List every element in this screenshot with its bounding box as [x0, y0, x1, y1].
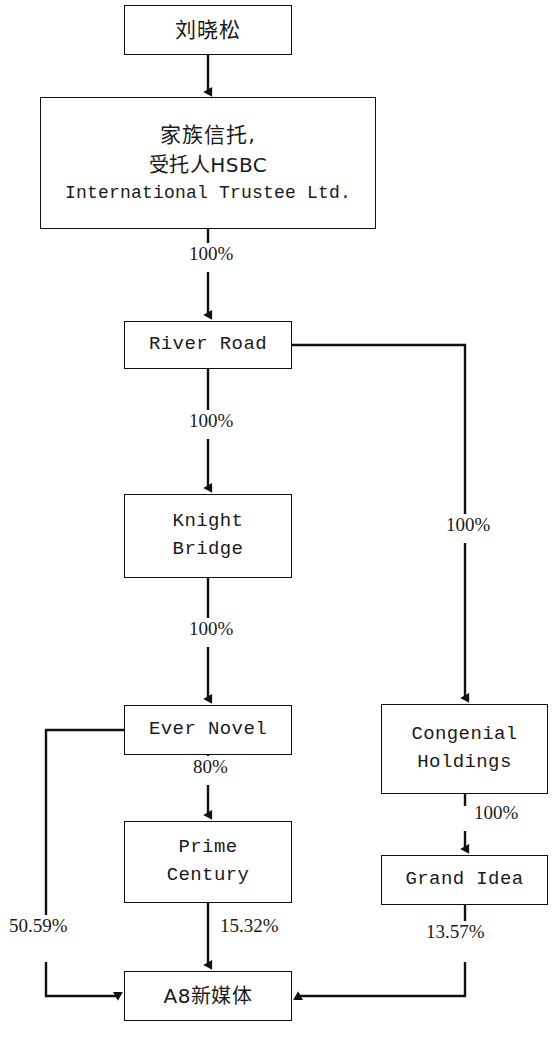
congenial-holdings-label-line2: Holdings — [417, 749, 511, 777]
liu-xiaosong-node[interactable]: 刘晓松 — [124, 5, 292, 55]
connector-river-road-branch-right — [292, 345, 465, 518]
family-trust-label-line1: 家族信托, — [160, 120, 256, 150]
connector-grand-idea-to-a8 — [298, 962, 465, 996]
prime-century-label-line2: Century — [167, 862, 250, 890]
river-road-node[interactable]: River Road — [124, 321, 292, 369]
grand-idea-node[interactable]: Grand Idea — [381, 855, 548, 905]
congenial-holdings-node[interactable]: Congenial Holdings — [381, 704, 548, 794]
a8-new-media-label: A8新媒体 — [164, 982, 253, 1011]
knight-bridge-label-line2: Bridge — [173, 536, 244, 564]
edge-label-river-road-to-knight-bridge: 100% — [186, 410, 236, 432]
edge-label-prime-century-to-a8: 15.32% — [217, 915, 282, 937]
congenial-holdings-label-line1: Congenial — [411, 721, 517, 749]
family-trust-label-line2: 受托人HSBC — [149, 151, 268, 180]
edge-label-congenial-to-grand-idea: 100% — [471, 802, 521, 824]
prime-century-node[interactable]: Prime Century — [124, 821, 292, 903]
edge-label-river-road-to-congenial: 100% — [443, 514, 493, 536]
connector-ever-novel-left-to-a8 — [46, 962, 118, 996]
river-road-label: River Road — [149, 331, 267, 359]
knight-bridge-label-line1: Knight — [173, 508, 244, 536]
liu-xiaosong-label: 刘晓松 — [175, 15, 241, 45]
grand-idea-label: Grand Idea — [405, 866, 523, 894]
prime-century-label-line1: Prime — [178, 834, 237, 862]
knight-bridge-node[interactable]: Knight Bridge — [124, 494, 292, 578]
edge-label-trust-to-river-road: 100% — [186, 243, 236, 265]
edge-label-grand-idea-to-a8: 13.57% — [423, 921, 488, 943]
family-trust-label-line3: International Trustee Ltd. — [65, 180, 351, 206]
ever-novel-node[interactable]: Ever Novel — [124, 705, 292, 755]
family-trust-node[interactable]: 家族信托, 受托人HSBC International Trustee Ltd. — [40, 97, 376, 229]
a8-new-media-node[interactable]: A8新媒体 — [124, 971, 292, 1021]
edge-label-ever-novel-to-a8: 50.59% — [6, 915, 71, 937]
edge-label-knight-bridge-to-ever-novel: 100% — [186, 618, 236, 640]
ownership-structure-diagram: 刘晓松 家族信托, 受托人HSBC International Trustee … — [0, 0, 554, 1037]
ever-novel-label: Ever Novel — [149, 716, 267, 744]
edge-label-ever-novel-to-prime-century: 80% — [190, 756, 231, 778]
